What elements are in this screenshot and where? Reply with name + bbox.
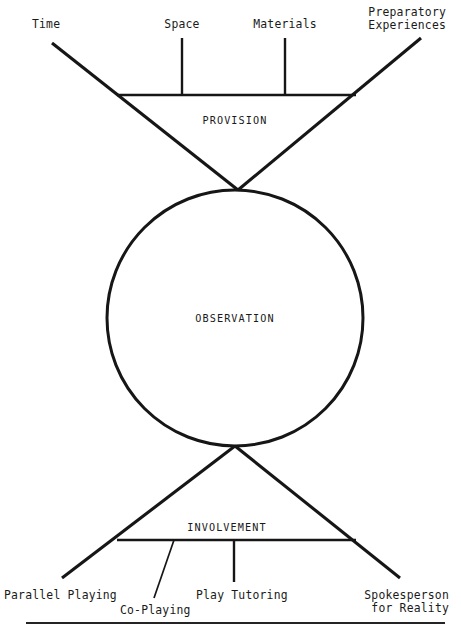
node-label-play-tutoring: Play Tutoring: [196, 589, 288, 602]
region-label-involvement: INVOLVEMENT: [167, 521, 287, 534]
node-label-space: Space: [142, 18, 222, 31]
region-label-provision: PROVISION: [175, 114, 295, 127]
involvement-left-diagonal: [62, 446, 235, 578]
diagram-root: Time Space Materials Preparatory Experie…: [0, 0, 461, 641]
node-label-materials: Materials: [245, 18, 325, 31]
node-label-co-playing: Co-Playing: [120, 604, 191, 617]
node-label-time: Time: [32, 18, 60, 31]
involvement-right-diagonal: [235, 446, 400, 578]
region-label-observation: OBSERVATION: [175, 312, 295, 325]
node-label-preparatory-experiences: Preparatory Experiences: [320, 6, 446, 33]
node-label-spokesperson-for-reality: Spokesperson for Reality: [328, 589, 449, 616]
node-label-parallel-playing: Parallel Playing: [4, 589, 117, 602]
co-playing-leader-line: [154, 540, 174, 598]
